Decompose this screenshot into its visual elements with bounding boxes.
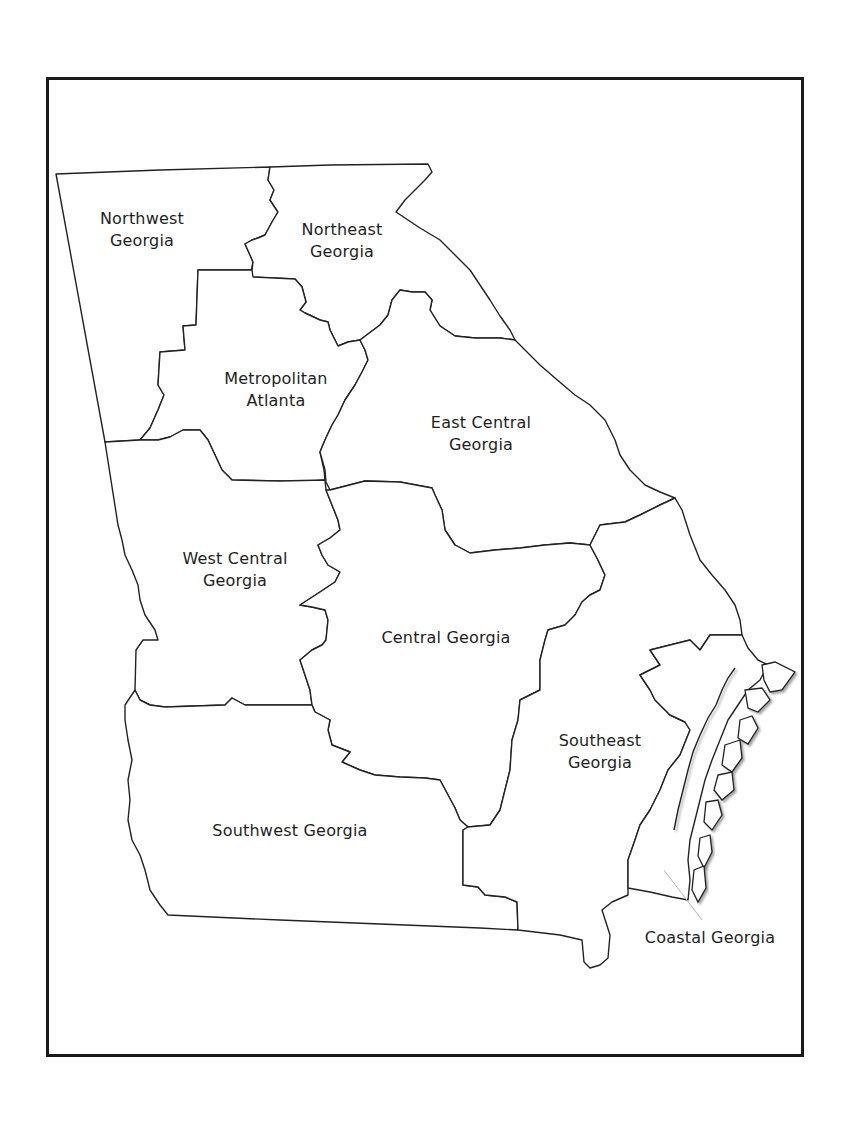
georgia-regions-map: [0, 0, 852, 1130]
